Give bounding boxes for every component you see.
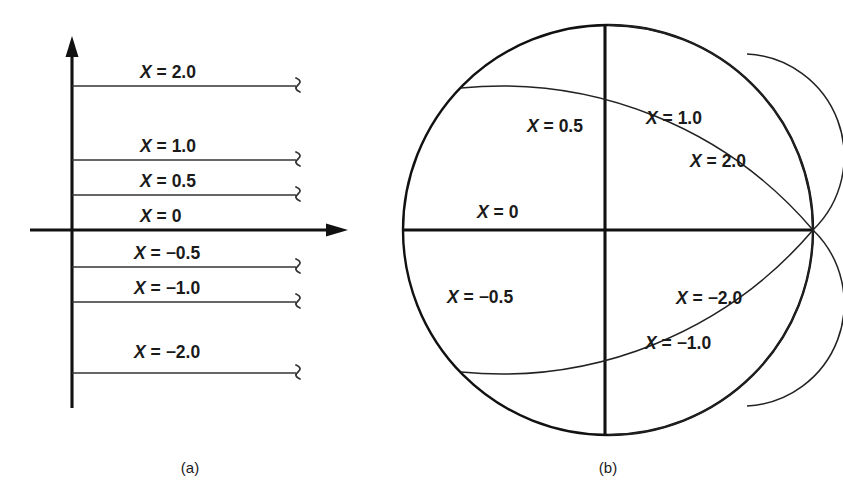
- panel-a-label-x-0p5: X = 0.5: [139, 171, 196, 191]
- panel-b-label-x-neg0p5: X = −0.5: [446, 287, 513, 307]
- break-symbol-icon: [296, 78, 300, 92]
- panel-b-label-x-neg1p0: X = −1.0: [644, 333, 711, 353]
- panel-a-label-x-neg0p5: X = −0.5: [133, 243, 200, 263]
- smith-arc-x-neg2p0: [747, 230, 843, 406]
- panel-b-label-x-2p0: X = 2.0: [689, 151, 746, 171]
- axis-arrow-up-icon: [66, 36, 79, 57]
- real-axis: [30, 224, 348, 237]
- figure-root: X = 2.0 X = 1.0 X = 0.5 X = 0 X = −0.5: [0, 0, 843, 500]
- smith-arc-x-2p0: [747, 54, 843, 230]
- axis-arrow-right-icon: [326, 224, 348, 237]
- panel-b-label-x-neg2p0: X = −2.0: [675, 288, 742, 308]
- panel-b-label-x-0p5: X = 0.5: [526, 116, 583, 136]
- panel-a-caption: (a): [181, 459, 199, 476]
- panel-a-label-x-1p0: X = 1.0: [139, 136, 196, 156]
- break-symbol-icon: [296, 187, 300, 201]
- panel-a-label-x-neg1p0: X = −1.0: [133, 278, 200, 298]
- panel-b-label-x-0: X = 0: [476, 202, 519, 222]
- break-symbol-icon: [296, 152, 300, 166]
- panel-b-label-x-1p0: X = 1.0: [645, 108, 702, 128]
- panel-a: X = 2.0 X = 1.0 X = 0.5 X = 0 X = −0.5: [30, 36, 348, 476]
- imaginary-axis: [66, 36, 79, 408]
- break-symbol-icon: [296, 294, 300, 308]
- smith-arc-x-1p0: [608, 25, 813, 230]
- panel-b-caption: (b): [599, 459, 617, 476]
- panel-a-label-x-0: X = 0: [139, 206, 182, 226]
- break-symbol-icon: [296, 365, 300, 379]
- smith-arc-x-neg0p5: [461, 230, 813, 374]
- panel-b: X = 0.5 X = 1.0 X = 2.0 X = 0 X = −0.5 X…: [403, 25, 843, 476]
- figure-canvas: X = 2.0 X = 1.0 X = 0.5 X = 0 X = −0.5: [0, 0, 843, 500]
- panel-a-label-x-neg2p0: X = −2.0: [133, 342, 200, 362]
- break-symbol-icon: [296, 259, 300, 273]
- reactance-line-x-neg2p0: [72, 365, 300, 379]
- panel-a-label-x-2p0: X = 2.0: [139, 62, 196, 82]
